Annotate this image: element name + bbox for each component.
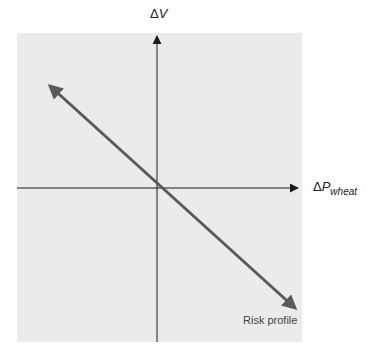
y-axis-delta: Δ <box>150 6 159 21</box>
y-axis-label: ΔV <box>150 6 167 21</box>
x-axis-delta: Δ <box>313 179 322 194</box>
risk-profile-diagram <box>0 0 369 355</box>
y-axis-var: V <box>159 6 168 21</box>
x-axis-subscript: wheat <box>330 186 357 197</box>
x-axis-label: ΔPwheat <box>313 179 357 197</box>
risk-profile-label: Risk profile <box>243 314 297 326</box>
